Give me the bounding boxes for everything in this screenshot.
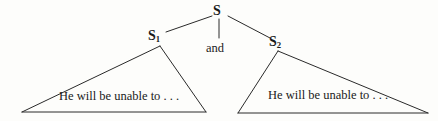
branch-root-to-s1 (166, 16, 212, 32)
s1-label: S (148, 28, 156, 43)
branch-root-to-s2 (228, 16, 270, 38)
right-triangle-text: He will be unable to . . . (268, 89, 388, 102)
syntax-tree-diagram: S S1 S2 and He will be unable to . . . H… (0, 0, 438, 121)
node-root-s: S (213, 4, 221, 18)
node-conjunction-and: and (206, 42, 224, 55)
right-triangle-left-edge (238, 51, 278, 113)
right-triangle-right-edge (278, 51, 428, 113)
root-s-label: S (213, 3, 221, 18)
node-s1: S1 (148, 29, 160, 44)
s2-subscript: 2 (277, 40, 281, 50)
node-s2: S2 (269, 35, 281, 50)
s1-subscript: 1 (156, 34, 160, 44)
s2-label: S (269, 34, 277, 49)
left-triangle-text: He will be unable to . . . (59, 90, 179, 103)
